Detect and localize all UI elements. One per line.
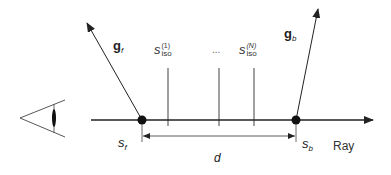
front-position-label: sf — [118, 136, 127, 149]
iso-ellipsis-label: ... — [212, 45, 220, 55]
isosurface-lines — [168, 68, 254, 126]
gradient-back-arrow — [296, 9, 318, 120]
back-sample-point — [292, 116, 301, 125]
iso-first-label: s(1)iso — [154, 43, 175, 56]
front-sample-point — [138, 116, 147, 125]
ray-isosurface-diagram: gf gb s(1)iso ... s(N)iso sf sb Ray d — [0, 0, 391, 175]
gradient-front-label: gf — [113, 39, 123, 52]
ray-label: Ray — [333, 140, 354, 152]
back-position-label: sb — [302, 137, 313, 150]
iso-last-label: s(N)iso — [239, 43, 262, 56]
distance-measure — [142, 124, 296, 142]
gradient-back-label: gb — [284, 27, 296, 40]
distance-label: d — [214, 152, 221, 164]
eye-icon — [20, 100, 65, 137]
